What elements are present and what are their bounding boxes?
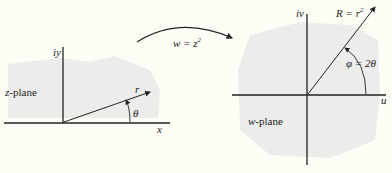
w-u-label: u	[381, 94, 387, 106]
w-plane-label: w-plane	[248, 115, 283, 127]
z-plane-label: z-plane	[4, 86, 37, 98]
w-plane-region	[238, 22, 380, 158]
z-r-label: r	[135, 83, 140, 95]
z-theta-label: θ	[133, 107, 139, 119]
mapping-label: w = z2	[173, 36, 202, 49]
w-R-label: R = r2	[335, 6, 364, 19]
z-x-label: x	[156, 123, 162, 135]
conformal-mapping-diagram: z-plane iy x r θ w = z2 iv u R = r2 φ = …	[0, 0, 392, 173]
w-phi-label: φ = 2θ	[346, 57, 377, 69]
w-v-label: iv	[296, 7, 304, 19]
z-y-label: iy	[53, 46, 61, 58]
